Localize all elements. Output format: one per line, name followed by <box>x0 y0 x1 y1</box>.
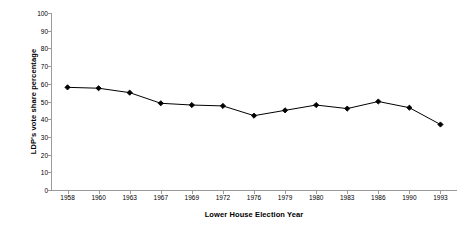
y-axis-tick-label: 60 <box>26 80 48 87</box>
y-axis-tick-label: 10 <box>26 169 48 176</box>
x-axis-tick-label: 1993 <box>420 194 460 202</box>
x-axis-tick-labels: 1958196019631967196919721976197919801983… <box>52 194 456 206</box>
data-point-marker <box>251 113 256 118</box>
y-axis-tick-label: 100 <box>26 10 48 17</box>
data-point-marker <box>314 102 319 107</box>
data-point-marker <box>189 102 194 107</box>
y-axis-tick-label: 50 <box>26 98 48 105</box>
y-axis-tick-label: 90 <box>26 27 48 34</box>
data-point-marker <box>127 90 132 95</box>
y-axis-tick-label: 80 <box>26 45 48 52</box>
y-axis-tick-label: 70 <box>26 63 48 70</box>
data-point-marker <box>158 101 163 106</box>
series-line <box>68 87 441 124</box>
data-point-marker <box>438 122 443 127</box>
x-axis-title: Lower House Election Year <box>52 210 456 219</box>
y-axis-tick-label: 0 <box>26 187 48 194</box>
data-series-layer <box>52 13 456 190</box>
data-point-marker <box>220 103 225 108</box>
y-axis-tick-label: 40 <box>26 116 48 123</box>
plot-area <box>52 13 456 190</box>
y-axis-tick-mark <box>48 190 52 191</box>
data-point-marker <box>376 99 381 104</box>
data-point-marker <box>407 105 412 110</box>
y-axis-tick-label: 30 <box>26 133 48 140</box>
y-axis-tick-label: 20 <box>26 151 48 158</box>
data-point-marker <box>282 108 287 113</box>
y-axis-tick-labels: 0102030405060708090100 <box>26 9 48 191</box>
data-point-marker <box>96 86 101 91</box>
data-point-marker <box>345 106 350 111</box>
data-point-marker <box>65 85 70 90</box>
line-chart: LDP's vote share percentage 010203040506… <box>0 0 469 234</box>
